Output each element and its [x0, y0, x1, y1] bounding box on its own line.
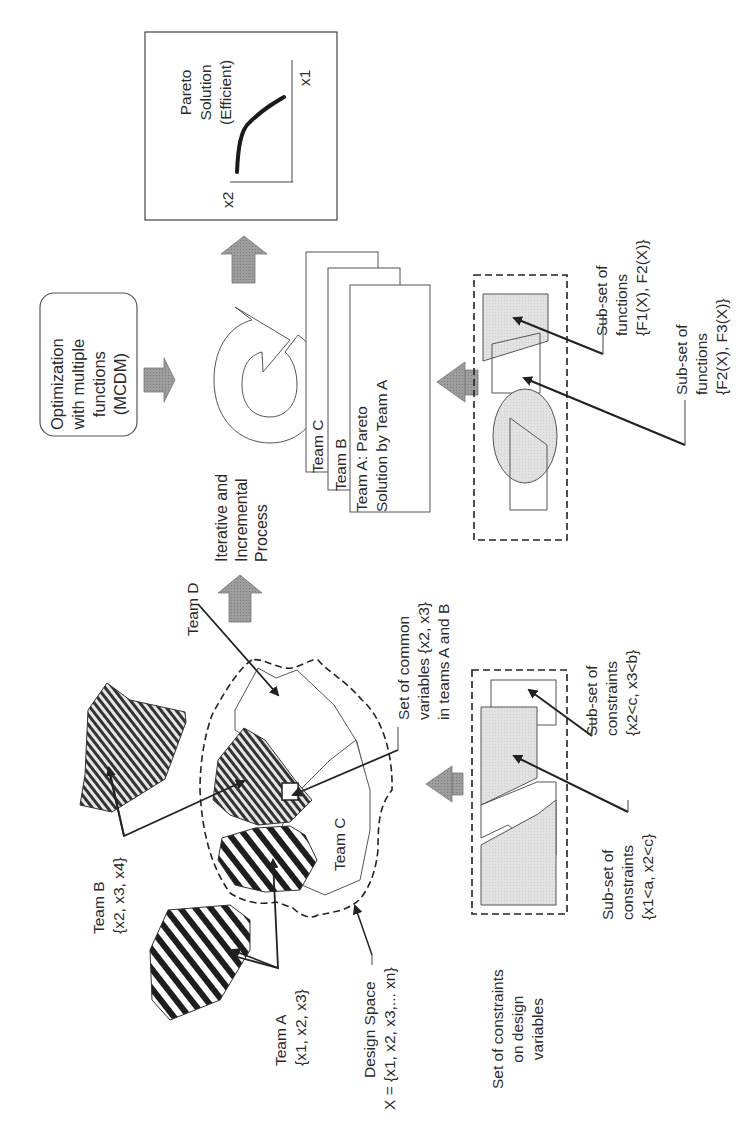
arrow-to-process	[218, 575, 262, 622]
constraints-set-label: Set of constraints on design variables	[488, 969, 548, 1089]
constraint-shapes	[481, 680, 556, 905]
mcdm-design-diagram	[0, 0, 752, 1140]
team-a-label: Team A {x1, x2, x3}	[271, 989, 311, 1066]
pareto-x2-label: x2	[218, 192, 238, 208]
arrow-mcdm-to-process	[144, 358, 175, 402]
function-shapes	[483, 294, 557, 510]
common-variables-label: Set of common variables {x2, x3} in team…	[394, 602, 454, 720]
arrow-functions-to-solutions-head	[437, 362, 465, 402]
mcdm-label: Optimization with multiple functions (MC…	[47, 338, 131, 430]
team-a-region-inner	[218, 826, 317, 892]
team-c-label: Team C	[330, 818, 350, 871]
design-space-formula: X = {x1, x2, x3,... xn}	[380, 967, 400, 1110]
arrow-constraints-to-design-space-head	[426, 766, 452, 802]
functions-subset-1-label: Sub-set of functions {F1(X), F2(X)}	[592, 240, 652, 336]
team-b-sheet-label: Team B	[331, 438, 351, 491]
constraint-region-bottom	[481, 800, 556, 905]
constraint-region-x1-x2	[481, 707, 537, 805]
functions-subset-2-label: Sub-set of functions {F2(X), F3(X)}	[672, 299, 732, 395]
team-d-label: Team D	[183, 583, 203, 636]
arrow-to-pareto	[221, 236, 267, 283]
pointer-design-space	[355, 906, 372, 955]
constraints-subset-1-label: Sub-set of constraints {x1<a, x2<c}	[598, 834, 658, 920]
common-variables-square	[282, 783, 298, 800]
process-label: Iterative and Incremental Process	[212, 474, 272, 562]
pareto-solution-title: Pareto Solution (Efficient)	[176, 60, 236, 125]
team-a-sheet-label: Team A: Pareto Solution by Team A	[352, 380, 392, 512]
team-b-region-outer	[80, 683, 186, 812]
team-b-label: Team B {x2, x3, x4}	[89, 857, 129, 934]
pareto-solution-box	[145, 32, 337, 220]
arrow-functions-to-solutions	[465, 370, 478, 395]
team-c-sheet-label: Team C	[308, 420, 328, 473]
pareto-x1-label: x1	[295, 70, 315, 86]
arrow-constraints-to-design-space	[452, 773, 463, 795]
design-space-title: Design Space	[360, 981, 380, 1078]
constraints-subset-2-label: Sub-set of constraints {x2<c, x3<b}	[582, 650, 642, 736]
team-a-region-outer	[150, 905, 250, 1020]
